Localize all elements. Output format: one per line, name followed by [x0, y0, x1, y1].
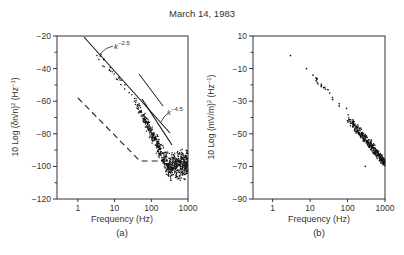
data-point [169, 153, 170, 154]
annotation-k-2.5: k−2.5 [114, 40, 131, 51]
data-point [315, 77, 316, 78]
data-point [162, 145, 163, 146]
data-point [173, 162, 174, 163]
data-point [169, 167, 170, 168]
data-point [364, 141, 365, 142]
data-point [380, 153, 381, 154]
data-point [382, 160, 383, 161]
data-point [135, 100, 136, 101]
data-point [170, 178, 171, 179]
data-point [172, 157, 173, 158]
data-point [166, 154, 167, 155]
data-point [290, 55, 292, 57]
annotation-leader-k-2.5 [100, 46, 113, 54]
y-tick-label: −70 [233, 161, 248, 171]
data-point [140, 107, 141, 108]
data-point [169, 165, 170, 166]
data-point [359, 128, 360, 129]
data-point [166, 155, 167, 156]
data-point [166, 156, 167, 157]
data-point [146, 125, 147, 126]
data-point [167, 152, 168, 153]
data-point [170, 158, 171, 159]
data-point [181, 166, 182, 167]
data-point [143, 121, 144, 122]
data-point [159, 153, 160, 154]
data-point [178, 178, 179, 179]
data-point [181, 152, 182, 153]
data-point [109, 69, 110, 70]
data-point [177, 151, 178, 152]
data-point [171, 166, 172, 167]
data-point [180, 168, 181, 169]
data-point [136, 98, 137, 99]
data-point [183, 173, 184, 174]
data-point [173, 167, 174, 168]
y-tick-label: −60 [37, 96, 52, 106]
data-point [165, 158, 166, 159]
data-point [124, 88, 125, 89]
data-point [104, 66, 105, 67]
data-point [174, 156, 175, 157]
y-tick-label: −100 [32, 161, 51, 171]
data-point [184, 166, 185, 167]
panel-b-y-label: 10 Log (mV/m)2 (Hz−1) [206, 74, 216, 159]
data-point [175, 161, 176, 162]
data-point [179, 178, 180, 179]
data-point [149, 132, 150, 133]
data-point [155, 145, 156, 146]
data-point [178, 158, 179, 159]
data-point [186, 157, 187, 158]
data-point [375, 149, 376, 150]
data-point [379, 159, 380, 160]
data-point [376, 156, 377, 157]
data-point [148, 128, 149, 129]
data-point [163, 159, 164, 160]
data-point [164, 157, 165, 158]
data-point [164, 152, 165, 153]
data-point [183, 157, 184, 158]
data-point [183, 170, 184, 171]
data-point [371, 140, 372, 141]
data-point [172, 172, 173, 173]
data-point [181, 161, 182, 162]
data-point [158, 139, 159, 140]
data-point [142, 116, 143, 117]
data-point [367, 144, 368, 145]
data-point [339, 103, 340, 104]
data-point [112, 71, 113, 72]
data-point [102, 65, 103, 66]
data-point [145, 117, 146, 118]
data-point [154, 133, 155, 134]
data-point [378, 151, 379, 152]
annotation-k-4.5: k−4.5 [167, 106, 184, 117]
data-point [135, 102, 136, 103]
data-point [157, 146, 158, 147]
data-point [159, 155, 160, 156]
data-point [357, 124, 358, 125]
data-point [118, 77, 119, 78]
panel-b-x-label: Frequency (Hz) [288, 214, 350, 224]
data-point [332, 99, 334, 101]
panel-b-y-axis: 10−10−30−50−70−90 [233, 31, 253, 204]
data-point [165, 152, 166, 153]
data-point [182, 149, 183, 150]
data-point [98, 59, 99, 60]
data-point [173, 158, 174, 159]
data-point [162, 153, 163, 154]
data-point [174, 153, 175, 154]
data-point [382, 156, 383, 157]
data-point [166, 170, 167, 171]
data-point [176, 170, 177, 171]
data-point [317, 82, 318, 83]
data-point [136, 108, 137, 109]
data-point [181, 163, 182, 164]
data-point [139, 112, 140, 113]
data-point [373, 145, 374, 146]
data-point [138, 109, 139, 110]
data-point [169, 158, 170, 159]
data-point [184, 172, 185, 173]
data-point [383, 163, 384, 164]
data-point [348, 120, 349, 121]
data-point [381, 154, 382, 155]
